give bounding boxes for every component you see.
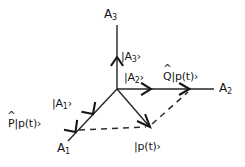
axis-label-a3-sub: 3 <box>112 13 117 22</box>
arrowhead-p-projection <box>65 121 77 132</box>
axis-label-a2-main: A <box>219 81 227 95</box>
ket-label-a2-suffix: › <box>140 71 144 84</box>
vector-diagram-figure: A3 |A3› |A2› Q|p(t)› A2 |A1› P|p(t)› A1 … <box>0 0 245 167</box>
q-projection-label-rest: |p(t)› <box>171 70 198 83</box>
axis-label-a3-main: A <box>104 7 112 21</box>
dashed-line-diagonal <box>152 92 188 124</box>
q-projection-label: Q|p(t)› <box>163 71 198 82</box>
axis-label-a1: A1 <box>57 142 70 154</box>
state-vector-label-text: |p(t)› <box>134 140 161 153</box>
ket-label-a1-suffix: › <box>68 97 72 110</box>
axis-label-a3: A3 <box>104 8 117 20</box>
p-operator-hat-symbol: P <box>8 118 14 129</box>
axis-label-a1-sub: 1 <box>65 147 70 156</box>
state-vector-label: |p(t)› <box>134 141 161 152</box>
ket-label-a3-prefix: |A <box>121 50 132 63</box>
ket-label-a2-sub: 2 <box>135 76 140 85</box>
ket-label-a1: |A1› <box>52 98 72 109</box>
dashed-line-horizontal <box>79 127 146 130</box>
q-operator-hat-symbol: Q <box>163 71 171 82</box>
ket-label-a1-sub: 1 <box>63 102 68 111</box>
ket-label-a1-prefix: |A <box>52 97 63 110</box>
p-projection-label-rest: |p(t)› <box>14 117 41 130</box>
ket-label-a3-suffix: › <box>137 50 141 63</box>
diagram-canvas <box>0 0 245 167</box>
axis-label-a2: A2 <box>219 82 232 94</box>
ket-label-a3-sub: 3 <box>132 55 137 64</box>
axis-line-a1 <box>68 89 117 141</box>
axis-label-a2-sub: 2 <box>227 87 232 96</box>
ket-label-a2-prefix: |A <box>124 71 135 84</box>
ket-label-a3: |A3› <box>121 51 141 62</box>
arrowhead-ket-a1 <box>83 103 96 114</box>
axis-label-a1-main: A <box>57 141 65 155</box>
p-projection-label: P|p(t)› <box>8 118 41 129</box>
ket-label-a2: |A2› <box>124 72 144 83</box>
state-vector-line <box>117 89 149 126</box>
